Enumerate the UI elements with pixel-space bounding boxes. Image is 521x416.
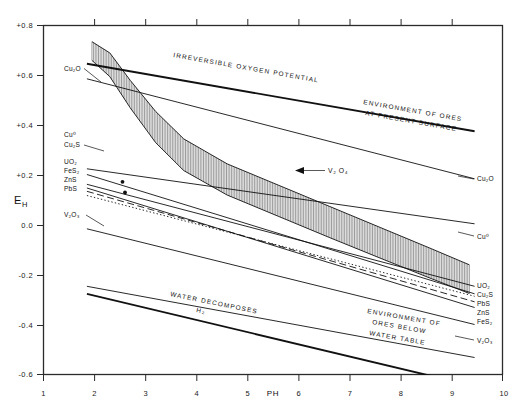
chart-canvas: +0.8 +0.6 +0.4 +0.2 0.0 -0.2 -0.4 -0.6 E… [0,0,521,416]
left-label-fes2: FeS₂ [64,167,80,174]
left-label-pbs: PbS [64,185,77,192]
arrow-head-icon [295,167,304,174]
data-marker [121,180,125,184]
data-markers [121,180,127,195]
x-axis-title: PH [267,389,280,398]
y-axis-title: E H [14,194,27,209]
y-tick-label: -0.4 [18,321,33,330]
y-axis-title-subscript: H [22,200,27,209]
left-label-zns: ZnS [64,176,77,183]
x-tick-label: 3 [143,389,148,398]
annotation-text: H₂ [196,306,207,315]
eh-ph-diagram: +0.8 +0.6 +0.4 +0.2 0.0 -0.2 -0.4 -0.6 E… [0,0,521,416]
v2o4-hatched-band [92,42,469,294]
x-tick-label: 4 [195,389,200,398]
left-species-labels: Cu₂O Cu⁰ Cu₂S UO₂ FeS₂ ZnS PbS V₂O₃ [64,65,104,226]
left-label-cu2s: Cu₂S [64,141,81,148]
y-tick-label: 0.0 [21,221,33,230]
x-tick-label: 7 [348,389,353,398]
annotation-text: IRREVERSIBLE OXYGEN POTENTIAL [173,51,320,84]
band-lower-edge [92,60,469,293]
left-label-v2o3: V₂O₃ [64,211,80,218]
right-label-v2o3: V₂O₃ [477,337,493,344]
left-label-cu0: Cu⁰ [64,131,76,138]
y-tick-label: -0.2 [18,271,33,280]
right-label-cu0: Cu⁰ [477,233,489,240]
x-tick-label: 2 [92,389,97,398]
y-tick-label: -0.6 [18,370,33,379]
right-species-labels: Cu₂O Cu⁰ UO₂ Cu₂S PbS ZnS FeS₂ V₂O₃ [455,175,494,344]
y-tick-label: +0.6 [17,71,33,80]
right-label-cu2o: Cu₂O [477,175,494,182]
y-tick-label: +0.2 [17,171,33,180]
x-tick-label: 6 [297,389,302,398]
right-label-pbs: PbS [477,300,490,307]
y-axis-title-main: E [14,194,22,206]
series-line-v2o3 [87,229,475,325]
y-tick-label: +0.8 [17,21,33,30]
annotation-text: V₂ O₄ [328,167,348,174]
y-tick-label: +0.4 [17,121,33,130]
right-label-zns: ZnS [477,309,490,316]
x-tick-label: 10 [499,389,508,398]
annotation-text: WATER DECOMPOSES [170,290,259,315]
x-tick-label: 1 [41,389,46,398]
right-label-fes2: FeS₂ [477,318,493,325]
right-label-uo2: UO₂ [477,282,490,289]
annotation-water-decomposes: WATER DECOMPOSES H₂ [170,290,259,315]
x-tick-label: 9 [450,389,455,398]
right-label-cu2s: Cu₂S [477,291,494,298]
left-label-uo2: UO₂ [64,158,77,165]
annotation-environment-present-surface: ENVIRONMENT OF ORES AT PRESENT SURFACE [363,98,463,132]
data-marker [123,191,127,195]
x-tick-label: 8 [399,389,404,398]
x-tick-label: 5 [246,389,251,398]
annotation-irreversible-oxygen-potential: IRREVERSIBLE OXYGEN POTENTIAL [173,51,320,84]
annotation-v2o4: V₂ O₄ [295,167,348,174]
left-label-cu2o: Cu₂O [64,65,81,72]
